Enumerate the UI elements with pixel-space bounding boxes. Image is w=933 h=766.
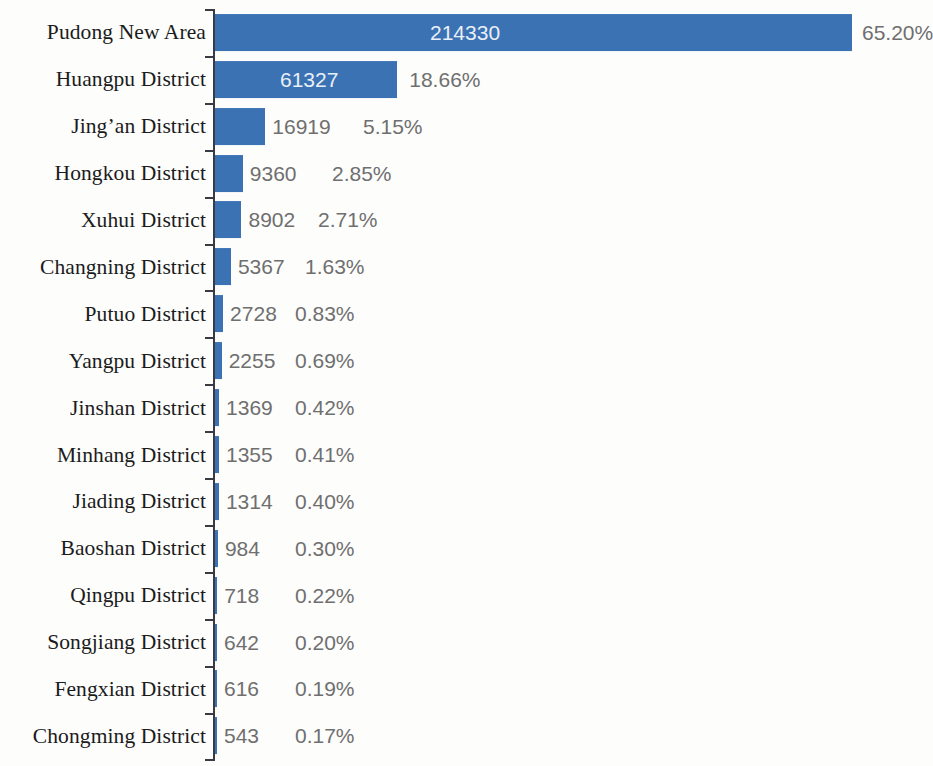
bar-percent-label: 0.83%: [295, 302, 355, 326]
bar[interactable]: [215, 14, 852, 51]
category-label: Changning District: [0, 254, 206, 279]
bar-value-label: 5367: [238, 255, 285, 279]
bar-percent-label: 0.41%: [295, 443, 355, 467]
bar-value-label: 1355: [226, 443, 273, 467]
bar-row: Fengxian District6160.19%: [0, 666, 933, 713]
category-label: Hongkou District: [0, 161, 206, 186]
bar-value-label: 2728: [230, 302, 277, 326]
bar-track: 93602.85%: [215, 150, 933, 197]
bar-percent-label: 0.17%: [295, 724, 355, 748]
bar-row: Chongming District5430.17%: [0, 713, 933, 760]
bar-percent-label: 2.71%: [318, 208, 378, 232]
horizontal-bar-chart: Pudong New Area21433065.20%Huangpu Distr…: [0, 0, 933, 766]
bar-track: 21433065.20%: [215, 9, 933, 56]
bar-percent-label: 0.19%: [295, 677, 355, 701]
bar-value-label: 8902: [248, 208, 295, 232]
bar-percent-label: 1.63%: [305, 255, 365, 279]
bar[interactable]: [215, 295, 223, 332]
bar-track: 169195.15%: [215, 103, 933, 150]
bar-track: 27280.83%: [215, 290, 933, 337]
bar-track: 13690.42%: [215, 384, 933, 431]
bar-percent-label: 5.15%: [363, 114, 423, 138]
bar-value-label: 214330: [430, 20, 500, 44]
bar[interactable]: [215, 717, 217, 754]
bar-row: Jing’an District169195.15%: [0, 103, 933, 150]
bar-value-label: 2255: [229, 349, 276, 373]
bar-row: Huangpu District6132718.66%: [0, 56, 933, 103]
category-label: Fengxian District: [0, 677, 206, 702]
bar-value-label: 616: [224, 677, 259, 701]
bar-percent-label: 0.69%: [295, 349, 355, 373]
category-label: Qingpu District: [0, 583, 206, 608]
bar-value-label: 9360: [250, 161, 297, 185]
category-label: Jiading District: [0, 489, 206, 514]
category-label: Baoshan District: [0, 536, 206, 561]
bar-row: Jinshan District13690.42%: [0, 384, 933, 431]
category-label: Jinshan District: [0, 395, 206, 420]
category-label: Huangpu District: [0, 67, 206, 92]
category-label: Xuhui District: [0, 208, 206, 233]
bar-value-label: 16919: [272, 114, 330, 138]
bar[interactable]: [215, 342, 222, 379]
bar[interactable]: [215, 108, 265, 145]
bar[interactable]: [215, 389, 219, 426]
bar[interactable]: [215, 624, 217, 661]
bar-row: Qingpu District7180.22%: [0, 572, 933, 619]
bar-percent-label: 0.30%: [295, 536, 355, 560]
bar-track: 7180.22%: [215, 572, 933, 619]
bar-row: Baoshan District9840.30%: [0, 525, 933, 572]
bar-value-label: 642: [224, 630, 259, 654]
bar-row: Xuhui District89022.71%: [0, 197, 933, 244]
bar[interactable]: [215, 248, 231, 285]
plot-area: Pudong New Area21433065.20%Huangpu Distr…: [0, 0, 933, 766]
bar-track: 6160.19%: [215, 666, 933, 713]
bar-percent-label: 0.40%: [295, 489, 355, 513]
bar[interactable]: [215, 577, 217, 614]
bar-value-label: 61327: [280, 67, 338, 91]
bar-track: 89022.71%: [215, 197, 933, 244]
bar-track: 5430.17%: [215, 712, 933, 759]
bar-row: Changning District53671.63%: [0, 244, 933, 291]
bar[interactable]: [215, 436, 219, 473]
category-label: Pudong New Area: [0, 20, 206, 45]
axis-tick: [205, 759, 214, 761]
bar-track: 22550.69%: [215, 337, 933, 384]
bar-value-label: 718: [224, 583, 259, 607]
bar[interactable]: [215, 530, 218, 567]
bar-value-label: 543: [224, 724, 259, 748]
bar-percent-label: 2.85%: [332, 161, 392, 185]
bar-row: Yangpu District22550.69%: [0, 337, 933, 384]
category-label: Putuo District: [0, 301, 206, 326]
bar-row: Putuo District27280.83%: [0, 290, 933, 337]
bar[interactable]: [215, 202, 241, 239]
bar-track: 13140.40%: [215, 478, 933, 525]
bar-track: 9840.30%: [215, 525, 933, 572]
category-label: Minhang District: [0, 442, 206, 467]
bar-row: Jiading District13140.40%: [0, 478, 933, 525]
bar[interactable]: [215, 671, 217, 708]
category-label: Yangpu District: [0, 348, 206, 373]
bar[interactable]: [215, 155, 243, 192]
bar-row: Hongkou District93602.85%: [0, 150, 933, 197]
bar-value-label: 1369: [226, 396, 273, 420]
bar-percent-label: 18.66%: [409, 67, 480, 91]
bar-track: 6132718.66%: [215, 56, 933, 103]
bar-percent-label: 65.20%: [862, 20, 933, 44]
bar-percent-label: 0.20%: [295, 630, 355, 654]
bar[interactable]: [215, 483, 219, 520]
bar-row: Pudong New Area21433065.20%: [0, 9, 933, 56]
bar-percent-label: 0.42%: [295, 396, 355, 420]
category-label: Jing’an District: [0, 114, 206, 139]
bar-value-label: 1314: [226, 489, 273, 513]
bar-track: 6420.20%: [215, 619, 933, 666]
bar-percent-label: 0.22%: [295, 583, 355, 607]
category-label: Chongming District: [0, 723, 206, 748]
bar-value-label: 984: [225, 536, 260, 560]
category-label: Songjiang District: [0, 630, 206, 655]
bar-row: Minhang District13550.41%: [0, 431, 933, 478]
bar-row: Songjiang District6420.20%: [0, 619, 933, 666]
bar-track: 13550.41%: [215, 431, 933, 478]
bar-track: 53671.63%: [215, 243, 933, 290]
